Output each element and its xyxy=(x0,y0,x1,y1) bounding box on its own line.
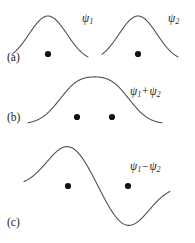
nucleus-dot-a-1 xyxy=(45,51,51,57)
psi-subscript-1: 1 xyxy=(137,90,141,99)
psi-subscript-1: 1 xyxy=(137,165,141,174)
psi-subscript-2: 2 xyxy=(157,90,161,99)
nucleus-dot-c-5 xyxy=(65,183,71,189)
nucleus-dot-b-4 xyxy=(109,114,115,120)
wavefunction-label-psi-diff: ψ1−ψ2 xyxy=(130,161,160,173)
nuclei-group xyxy=(45,51,141,189)
wavefunction-curve-canvas xyxy=(0,0,195,243)
wavefunction-label-psi-sum: ψ1+ψ2 xyxy=(130,86,160,98)
psi-glyph: ψ xyxy=(149,85,156,97)
wavefunction-curve-psi-1-plus-psi-2 xyxy=(28,77,162,123)
wavefunction-label-psi2: ψ2 xyxy=(168,13,179,25)
wavefunction-label-psi1: ψ1 xyxy=(82,13,93,25)
panel-label-c: (c) xyxy=(7,217,20,229)
psi-subscript-1: 1 xyxy=(89,17,93,26)
psi-glyph: ψ xyxy=(149,160,156,172)
curves-group xyxy=(12,16,178,225)
psi-subscript-2: 2 xyxy=(157,165,161,174)
nucleus-dot-a-2 xyxy=(135,51,141,57)
molecular-orbital-figure: (a) ψ1 ψ2 (b) ψ1+ψ2 (c) ψ1−ψ2 xyxy=(0,0,195,243)
psi-subscript-2: 2 xyxy=(175,17,179,26)
wavefunction-curve-psi-1 xyxy=(12,16,88,57)
wavefunction-curve-psi-1-minus-psi-2 xyxy=(24,147,170,226)
wavefunction-curve-psi-2 xyxy=(102,16,178,57)
nucleus-dot-c-6 xyxy=(125,183,131,189)
panel-label-b: (b) xyxy=(7,112,20,124)
panel-label-a: (a) xyxy=(7,52,20,64)
nucleus-dot-b-3 xyxy=(74,114,80,120)
